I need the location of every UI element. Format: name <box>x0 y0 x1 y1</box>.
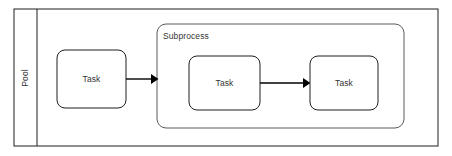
bpmn-diagram: Pool Subprocess Task Task Task <box>0 0 452 156</box>
subprocess-label: Subprocess <box>163 31 209 41</box>
pool-label: Pool <box>20 69 30 86</box>
pool-label-group: Pool <box>20 69 30 86</box>
task-2-node[interactable]: Task <box>189 56 260 110</box>
task-2-label: Task <box>216 78 235 88</box>
task-3-label: Task <box>335 78 354 88</box>
task-1-node[interactable]: Task <box>57 50 126 108</box>
task-3-node[interactable]: Task <box>310 56 378 110</box>
diagram-canvas: Pool Subprocess Task Task Task <box>0 0 452 156</box>
task-1-label: Task <box>83 74 102 84</box>
